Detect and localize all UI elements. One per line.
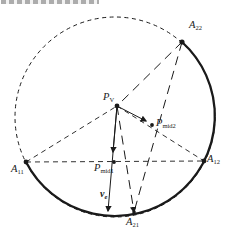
circle-diagram (0, 0, 228, 237)
point-PM1 (112, 160, 116, 164)
point-PM2 (150, 123, 154, 127)
point-A12 (202, 159, 207, 164)
point-A22 (179, 39, 184, 44)
point-PV (115, 104, 120, 109)
edge-PV-A12 (117, 106, 204, 161)
edge-PV-A21 (117, 106, 134, 212)
point-A11 (24, 160, 29, 165)
vector-PV-Pmid2 (117, 106, 146, 121)
vector-PV-Pmid1 (113, 106, 117, 152)
chord-A22-A21 (134, 42, 182, 212)
edge-A22-PV (117, 42, 182, 106)
geometry-figure: A22A12A11A21PVPmid2Pmid1ve (0, 0, 228, 237)
point-A21 (132, 210, 136, 214)
edge-A11-PV (26, 106, 117, 162)
